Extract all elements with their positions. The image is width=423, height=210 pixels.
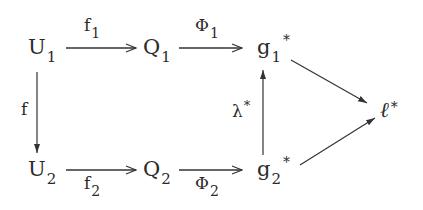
node-g1-base: g — [257, 35, 270, 59]
node-g2: g2* — [257, 159, 290, 180]
node-q2: Q2 — [143, 159, 171, 180]
label-phi2-base: Φ — [195, 173, 209, 193]
node-l-sup: * — [391, 99, 398, 115]
label-f-base: f — [21, 99, 27, 119]
arrow-g1-to-l — [291, 60, 367, 103]
node-q1: Q1 — [143, 37, 171, 58]
node-u2: U2 — [28, 159, 56, 180]
node-l-star: ℓ* — [380, 100, 398, 121]
label-lambda-base: λ — [232, 101, 243, 121]
label-f2: f2 — [84, 175, 100, 192]
node-g2-sup: * — [283, 154, 290, 170]
node-g2-base: g — [257, 157, 270, 181]
commutative-diagram: U1 Q1 g1* U2 Q2 g2* ℓ* f1 Φ1 f f2 Φ2 λ* — [0, 0, 423, 210]
node-g1-sup: * — [283, 32, 290, 48]
node-l-base: ℓ — [380, 98, 389, 122]
node-q1-sub: 1 — [161, 48, 171, 66]
arrow-g2-to-l — [300, 118, 375, 165]
label-f1-base: f — [84, 15, 90, 35]
label-f2-sub: 2 — [91, 183, 100, 199]
label-phi2: Φ2 — [195, 175, 219, 192]
label-phi1-sub: 1 — [210, 25, 219, 41]
node-u1: U1 — [28, 37, 56, 58]
node-g1-sub: 1 — [271, 48, 281, 66]
label-phi1-base: Φ — [195, 15, 209, 35]
label-phi1: Φ1 — [195, 17, 219, 34]
label-lambda-star: λ* — [232, 103, 250, 120]
node-q2-base: Q — [143, 157, 160, 181]
label-f: f — [21, 101, 27, 118]
node-u1-sub: 1 — [47, 48, 57, 66]
node-q2-sub: 2 — [161, 170, 171, 188]
label-phi2-sub: 2 — [210, 183, 219, 199]
node-u1-base: U — [28, 35, 46, 59]
label-f2-base: f — [84, 173, 90, 193]
label-f1: f1 — [84, 17, 100, 34]
node-g1: g1* — [257, 37, 290, 58]
label-f1-sub: 1 — [91, 25, 100, 41]
node-q1-base: Q — [143, 35, 160, 59]
node-u2-sub: 2 — [47, 170, 57, 188]
label-lambda-sup: * — [244, 98, 251, 113]
node-g2-sub: 2 — [271, 170, 281, 188]
node-u2-base: U — [28, 157, 46, 181]
